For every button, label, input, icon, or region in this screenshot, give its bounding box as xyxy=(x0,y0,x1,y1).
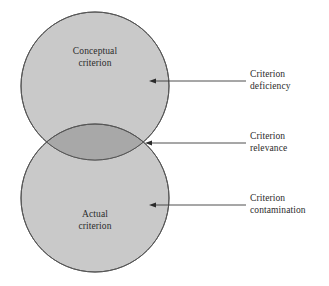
annotation-criterion-contamination: Criterion contamination xyxy=(250,193,328,216)
venn-diagram: Conceptual criterion Actual criterion Cr… xyxy=(0,0,329,286)
arrow-criterion-relevance xyxy=(145,140,246,145)
annotation-criterion-relevance: Criterion relevance xyxy=(250,131,328,154)
label-conceptual-criterion: Conceptual criterion xyxy=(45,46,145,69)
label-actual-criterion: Actual criterion xyxy=(45,209,145,232)
annotation-criterion-deficiency: Criterion deficiency xyxy=(250,69,328,92)
